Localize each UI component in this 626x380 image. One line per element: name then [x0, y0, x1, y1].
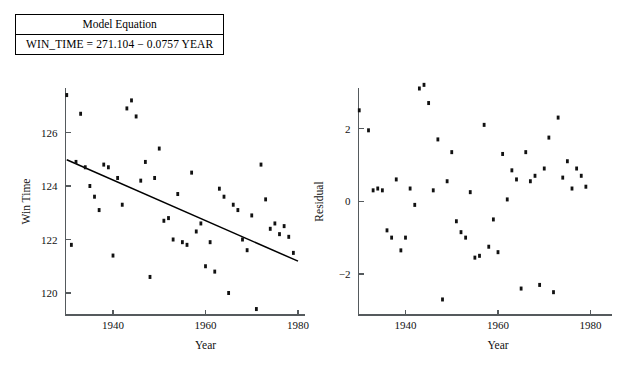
data-point [79, 112, 82, 116]
data-point [478, 254, 481, 258]
data-point [153, 176, 156, 180]
data-point [367, 128, 370, 132]
data-point [190, 171, 193, 175]
data-point [487, 245, 490, 249]
data-point [125, 106, 128, 110]
data-point [218, 187, 221, 191]
data-point [501, 152, 504, 156]
data-point [139, 179, 142, 183]
data-point [427, 101, 430, 105]
data-point [172, 238, 175, 242]
x-tick-label: 1960 [195, 319, 218, 331]
data-point [580, 174, 583, 178]
data-point [538, 283, 541, 287]
data-point [199, 221, 202, 225]
data-point [469, 190, 472, 194]
y-axis-title: Win Time [20, 179, 32, 225]
data-point [575, 167, 578, 171]
data-point [70, 243, 73, 247]
y-tick-label: 0 [345, 195, 351, 207]
x-axis-title: Year [195, 339, 216, 351]
data-point [571, 187, 574, 191]
figure-page: Model Equation WIN_TIME = 271.104 − 0.07… [0, 0, 626, 380]
y-tick-label: 120 [41, 287, 58, 299]
data-point [529, 179, 532, 183]
data-point [176, 192, 179, 196]
data-point [223, 195, 226, 199]
data-point [278, 232, 281, 236]
data-point [98, 208, 101, 212]
data-point [88, 184, 91, 188]
y-tick-label: −2 [339, 268, 351, 280]
data-point [386, 228, 389, 232]
data-point [227, 291, 230, 295]
data-point [84, 165, 87, 169]
data-point [534, 174, 537, 178]
data-point [144, 160, 147, 164]
data-point [376, 187, 379, 191]
data-point [547, 136, 550, 140]
data-point [557, 116, 560, 120]
data-point [112, 254, 115, 258]
data-point [186, 243, 189, 247]
data-point [413, 203, 416, 207]
data-point [483, 123, 486, 127]
data-point [492, 217, 495, 221]
y-axis-title: Residual [313, 181, 325, 221]
y-tick-label: 2 [345, 123, 351, 135]
data-point [436, 137, 439, 141]
data-point [204, 264, 207, 268]
data-point [209, 240, 212, 244]
data-point [418, 86, 421, 90]
win-time-plot-svg: 194019601980120122124126YearWin Time [0, 0, 313, 380]
chart-residual-vs-year: 194019601980−202YearResidual [313, 0, 626, 380]
data-point [506, 197, 509, 201]
data-point [116, 176, 119, 180]
data-point [162, 219, 165, 223]
data-point [381, 188, 384, 192]
data-point [497, 250, 500, 254]
data-point [510, 168, 513, 172]
data-point [107, 165, 110, 169]
data-point [250, 213, 253, 217]
data-point [358, 108, 361, 112]
data-point [167, 216, 170, 220]
data-point [460, 230, 463, 234]
data-point [121, 203, 124, 207]
data-point [213, 270, 216, 274]
data-point [399, 248, 402, 252]
data-point [524, 150, 527, 154]
data-point [149, 275, 152, 279]
x-tick-label: 1960 [487, 319, 510, 331]
data-point [283, 224, 286, 228]
data-point [102, 163, 105, 167]
data-point [372, 188, 375, 192]
data-point [158, 147, 161, 151]
data-point [75, 160, 78, 164]
data-point [236, 208, 239, 212]
data-point [255, 307, 258, 311]
y-tick-label: 122 [41, 234, 58, 246]
data-point [246, 248, 249, 252]
data-point [409, 187, 412, 191]
data-point [269, 227, 272, 231]
data-point [584, 185, 587, 189]
data-point [93, 195, 96, 199]
data-point [543, 167, 546, 171]
x-tick-label: 1980 [580, 319, 603, 331]
data-point [455, 219, 458, 223]
data-point [260, 163, 263, 167]
data-point [441, 297, 444, 301]
data-point [65, 93, 68, 97]
x-tick-label: 1940 [395, 319, 418, 331]
data-point [181, 240, 184, 244]
residual-plot-svg: 194019601980−202YearResidual [313, 0, 626, 380]
data-point [566, 159, 569, 163]
data-point [232, 203, 235, 207]
data-point [292, 251, 295, 255]
y-tick-label: 126 [41, 127, 58, 139]
x-tick-label: 1980 [287, 319, 310, 331]
data-point [520, 287, 523, 291]
data-point [135, 114, 138, 118]
x-tick-label: 1940 [102, 319, 125, 331]
